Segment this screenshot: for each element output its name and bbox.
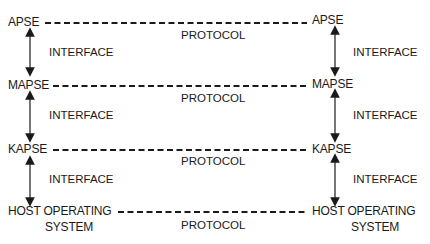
interface-label-left-2: INTERFACE bbox=[49, 109, 114, 122]
right-layer-kapse: KAPSE bbox=[312, 143, 351, 156]
right-layer-host: HOST OPERATING bbox=[312, 205, 415, 218]
right-layer-host-line2: SYSTEM bbox=[351, 221, 399, 234]
protocol-label-1: PROTOCOL bbox=[181, 29, 245, 42]
left-layer-kapse: KAPSE bbox=[8, 143, 47, 156]
left-layer-host: HOST OPERATING bbox=[8, 205, 111, 218]
left-layer-apse: APSE bbox=[8, 16, 39, 29]
protocol-label-3: PROTOCOL bbox=[181, 155, 245, 168]
left-layer-host-line2: SYSTEM bbox=[45, 221, 93, 234]
right-layer-mapse: MAPSE bbox=[312, 78, 353, 91]
interface-label-left-1: INTERFACE bbox=[49, 46, 114, 59]
interface-label-right-3: INTERFACE bbox=[353, 173, 418, 186]
left-layer-mapse: MAPSE bbox=[8, 79, 49, 92]
right-layer-apse: APSE bbox=[312, 14, 343, 27]
interface-label-left-3: INTERFACE bbox=[49, 173, 114, 186]
protocol-label-4: PROTOCOL bbox=[181, 219, 245, 232]
protocol-label-2: PROTOCOL bbox=[181, 92, 245, 105]
interface-label-right-1: INTERFACE bbox=[353, 46, 418, 59]
interface-label-right-2: INTERFACE bbox=[353, 109, 418, 122]
